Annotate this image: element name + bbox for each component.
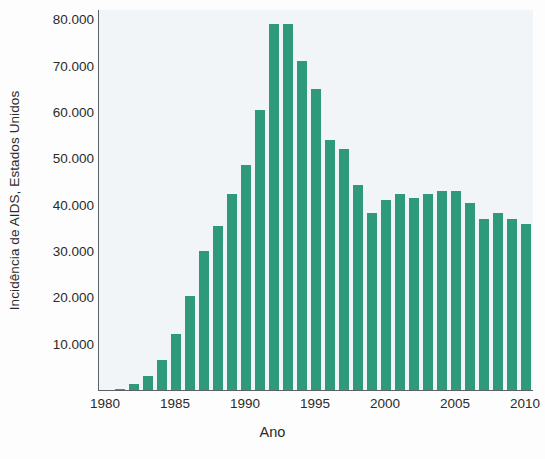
bar: [311, 89, 321, 390]
bar: [451, 191, 461, 390]
x-axis-tick-label: 1990: [230, 396, 260, 411]
bar: [297, 61, 307, 390]
bar: [171, 334, 181, 390]
bar: [423, 194, 433, 390]
y-axis-tick-label: 70.000: [32, 58, 94, 73]
x-axis-title: Ano: [0, 424, 545, 440]
bar: [325, 140, 335, 390]
bar: [479, 219, 489, 390]
x-axis-tick-label: 1980: [90, 396, 120, 411]
x-axis-tick-label: 2000: [370, 396, 400, 411]
bar-series: [99, 10, 533, 390]
x-axis-tick-label: 1995: [300, 396, 330, 411]
bar: [255, 110, 265, 390]
y-axis-tick-label: 10.000: [32, 336, 94, 351]
x-axis-tick-label: 2005: [440, 396, 470, 411]
bar: [129, 384, 139, 390]
bar: [283, 24, 293, 390]
bar: [213, 226, 223, 390]
y-axis-title: Incidência de AIDS, Estados Unidos: [0, 0, 30, 400]
bar: [395, 194, 405, 390]
x-axis-tick-label: 2010: [510, 396, 540, 411]
bar: [241, 165, 251, 390]
bar: [185, 296, 195, 390]
y-axis-tick-label: 30.000: [32, 243, 94, 258]
bar: [381, 200, 391, 390]
plot-area: [98, 10, 533, 391]
y-axis-tick-label: 60.000: [32, 104, 94, 119]
bar: [227, 194, 237, 390]
x-axis-tick-labels: 1980198519901995200020052010: [0, 396, 545, 420]
y-axis-tick-label: 80.000: [32, 12, 94, 27]
x-axis-tick-label: 1985: [160, 396, 190, 411]
bar: [115, 389, 125, 390]
bar: [269, 24, 279, 390]
bar: [409, 198, 419, 390]
y-axis-title-text: Incidência de AIDS, Estados Unidos: [8, 90, 23, 310]
aids-incidence-bar-chart: Incidência de AIDS, Estados Unidos 10.00…: [0, 0, 545, 459]
y-axis-tick-label: 20.000: [32, 290, 94, 305]
bar: [339, 149, 349, 390]
bar: [353, 185, 363, 390]
bar: [199, 251, 209, 390]
bar: [367, 213, 377, 390]
bar: [465, 203, 475, 390]
bar: [521, 224, 531, 390]
bar: [143, 376, 153, 390]
y-axis-tick-label: 50.000: [32, 151, 94, 166]
y-axis-tick-label: 40.000: [32, 197, 94, 212]
bar: [507, 219, 517, 390]
bar: [493, 213, 503, 390]
y-axis-tick-labels: 10.00020.00030.00040.00050.00060.00070.0…: [30, 0, 94, 459]
bar: [157, 360, 167, 390]
bar: [437, 191, 447, 390]
